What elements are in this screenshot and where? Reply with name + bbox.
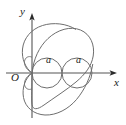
cardioid-upper-left-arc <box>22 24 76 73</box>
right-circle-radius-label: a <box>76 55 81 65</box>
left-circle-radius-label: a <box>46 55 51 65</box>
y-axis-label: y <box>20 6 25 17</box>
cardioid-plot <box>0 0 126 125</box>
figure-container: y x O a a <box>0 0 126 125</box>
x-axis-label: x <box>114 77 119 88</box>
origin-label: O <box>11 72 19 83</box>
